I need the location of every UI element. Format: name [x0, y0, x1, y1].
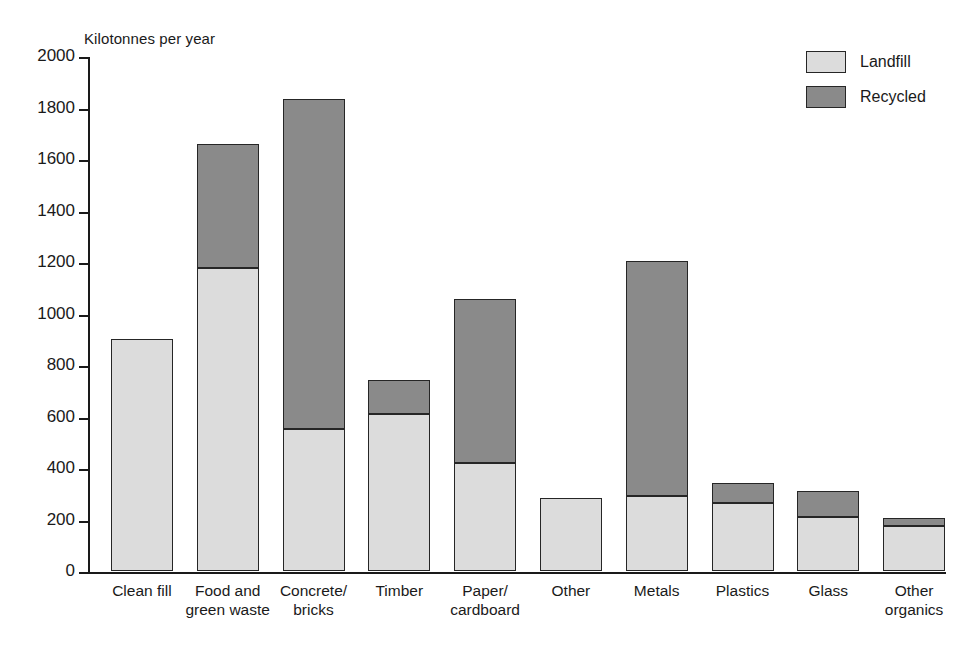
bar-segment-landfill: [797, 517, 859, 571]
bar-segment-recycled: [454, 299, 516, 463]
bar-segment-landfill: [540, 498, 602, 571]
bar-segment-landfill: [712, 503, 774, 571]
y-tick-label: 200: [47, 510, 75, 530]
legend-item-landfill: Landfill: [806, 47, 956, 76]
recycled-swatch-icon: [806, 86, 846, 108]
y-tick-mark: [79, 418, 88, 420]
bar-food-and-green-waste: [197, 144, 259, 571]
bar-segment-recycled: [626, 261, 688, 497]
x-axis-line: [88, 572, 946, 574]
stacked-bar-chart: Kilotonnes per year 02004006008001000120…: [0, 0, 958, 649]
bar-segment-recycled: [368, 380, 430, 413]
bar-clean-fill: [111, 339, 173, 571]
bar-segment-landfill: [626, 496, 688, 571]
bar-other: [540, 498, 602, 571]
legend-item-recycled: Recycled: [806, 82, 956, 111]
bar-segment-recycled: [283, 99, 345, 430]
y-tick-label: 1600: [37, 149, 75, 169]
y-tick-mark: [79, 109, 88, 111]
landfill-swatch-icon: [806, 51, 846, 73]
y-tick-label: 400: [47, 458, 75, 478]
x-tick-label: Other organics: [861, 581, 958, 619]
y-tick-label: 0: [66, 561, 75, 581]
plot-area: 0200400600800100012001400160018002000 Cl…: [88, 57, 946, 572]
bar-concrete-bricks: [283, 99, 345, 572]
bar-metals: [626, 261, 688, 571]
y-tick-mark: [79, 572, 88, 574]
y-tick-label: 1400: [37, 201, 75, 221]
bar-segment-landfill: [368, 414, 430, 571]
y-tick-label: 1200: [37, 252, 75, 272]
legend-label-recycled: Recycled: [860, 88, 926, 106]
bar-segment-landfill: [454, 463, 516, 571]
bar-segment-landfill: [883, 526, 945, 571]
bar-plastics: [712, 483, 774, 571]
y-tick-label: 1000: [37, 304, 75, 324]
y-tick-mark: [79, 212, 88, 214]
bar-segment-recycled: [883, 518, 945, 526]
y-tick-mark: [79, 160, 88, 162]
bar-other-organics: [883, 518, 945, 571]
bar-glass: [797, 491, 859, 571]
y-tick-mark: [79, 263, 88, 265]
y-tick-mark: [79, 366, 88, 368]
bar-segment-landfill: [197, 268, 259, 571]
chart-legend: Landfill Recycled: [806, 47, 956, 117]
y-tick-mark: [79, 469, 88, 471]
y-axis-title: Kilotonnes per year: [84, 30, 215, 47]
y-tick-label: 600: [47, 407, 75, 427]
y-tick-mark: [79, 315, 88, 317]
bar-timber: [368, 380, 430, 571]
y-tick-label: 2000: [37, 46, 75, 66]
bar-paper-cardboard: [454, 299, 516, 571]
bar-segment-landfill: [111, 339, 173, 571]
bar-segment-recycled: [797, 491, 859, 517]
y-tick-label: 800: [47, 355, 75, 375]
y-axis-line: [88, 57, 90, 573]
bar-segment-recycled: [197, 144, 259, 269]
bar-segment-recycled: [712, 483, 774, 502]
legend-label-landfill: Landfill: [860, 53, 911, 71]
bar-segment-landfill: [283, 429, 345, 571]
y-tick-label: 1800: [37, 98, 75, 118]
y-tick-mark: [79, 521, 88, 523]
y-tick-mark: [79, 57, 88, 59]
